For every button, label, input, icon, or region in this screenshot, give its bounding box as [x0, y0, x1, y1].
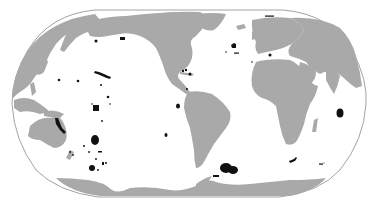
marker-caribbean-a	[182, 70, 184, 72]
marker-prince-edward	[319, 164, 323, 165]
marker-pacific-2	[77, 80, 80, 83]
marker-fiji-a	[98, 151, 102, 153]
marker-fiji-b	[102, 162, 104, 165]
marker-chagos	[337, 109, 344, 118]
marker-tasman-b	[72, 154, 74, 156]
world-map	[0, 0, 378, 207]
marker-kermadec-b	[97, 169, 99, 171]
marker-florida	[189, 73, 192, 76]
marker-central-pacific-b	[109, 103, 111, 105]
marker-fiji-c	[95, 158, 97, 160]
marker-mediterranean	[269, 54, 272, 57]
marker-pacific-4	[107, 96, 110, 99]
marker-phoenix-islands	[93, 105, 99, 111]
marker-central-pacific-c	[101, 120, 103, 122]
marker-canary	[251, 61, 253, 63]
marker-gulf-of-alaska	[95, 40, 98, 43]
marker-central-america	[186, 88, 188, 90]
marker-vanuatu-b	[88, 151, 90, 153]
marker-new-caledonia	[91, 135, 99, 145]
marker-prince-edward-b	[323, 162, 324, 163]
marker-aleutian	[120, 37, 125, 40]
marker-tasman-a	[69, 151, 71, 153]
marker-tonga	[105, 162, 107, 164]
marker-madeira	[234, 53, 239, 54]
marker-pacific-3	[100, 84, 102, 86]
marker-galapagos	[176, 104, 180, 109]
marker-pacific-1	[58, 79, 61, 82]
marker-south-orkney	[213, 175, 219, 177]
marker-central-pacific-a	[91, 103, 93, 105]
marker-caribbean-b	[185, 69, 187, 71]
marker-pitcairn	[165, 133, 168, 137]
marker-azores-b	[225, 51, 227, 53]
marker-south-georgia-2	[228, 166, 238, 174]
world-map-svg	[0, 0, 378, 207]
marker-svalbard	[265, 16, 274, 17]
marker-vanuatu-a	[83, 145, 85, 147]
marker-kermadec	[89, 165, 95, 171]
